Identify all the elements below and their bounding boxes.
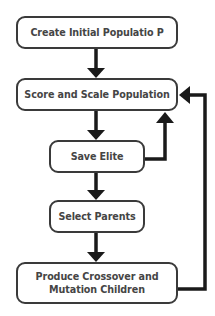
arrow-produce-loop-to-score [178, 86, 205, 289]
arrow-elite-to-select [87, 173, 105, 200]
node-label: Select Parents [58, 210, 135, 223]
node-save-elite: Save Elite [49, 140, 145, 173]
node-label: Save Elite [71, 150, 124, 163]
node-label-line1: Produce Crossover and [36, 270, 159, 283]
node-label: Create Initial Populatio P [30, 26, 163, 39]
node-label: Score and Scale Population [24, 88, 169, 101]
node-score-and-scale-population: Score and Scale Population [16, 78, 178, 111]
arrow-score-to-elite [87, 111, 105, 140]
node-produce-children: Produce Crossover and Mutation Children [16, 262, 178, 304]
node-create-initial-population: Create Initial Populatio P [16, 16, 178, 49]
arrow-create-to-score [87, 49, 105, 78]
arrow-elite-loop-to-score [145, 112, 174, 159]
arrow-select-to-produce [87, 233, 105, 262]
node-label-line2: Mutation Children [49, 283, 145, 296]
node-select-parents: Select Parents [49, 200, 145, 233]
